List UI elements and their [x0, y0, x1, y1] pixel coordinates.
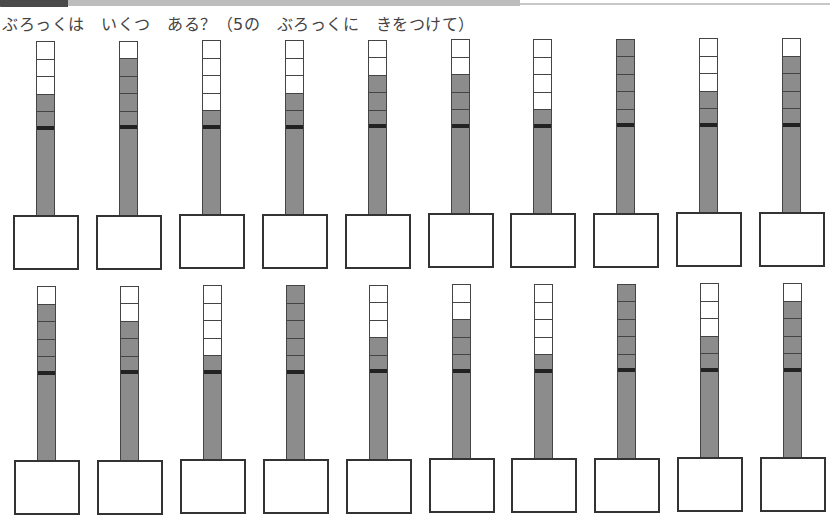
empty-block [203, 76, 220, 94]
filled-block [203, 111, 220, 129]
block-tower [533, 39, 552, 213]
answer-box[interactable] [676, 212, 742, 267]
empty-block [37, 77, 54, 95]
filled-block [784, 319, 801, 337]
empty-block [452, 40, 469, 58]
empty-block [453, 303, 470, 321]
answer-box[interactable] [96, 215, 162, 270]
empty-block [700, 74, 717, 92]
filled-block [783, 57, 800, 75]
answer-box[interactable] [180, 459, 246, 514]
filled-block [286, 94, 303, 112]
five-block [121, 374, 138, 460]
filled-block [370, 338, 387, 356]
answer-box[interactable] [511, 458, 577, 513]
filled-block [618, 285, 635, 303]
header-bar [68, 0, 520, 6]
filled-block [453, 338, 470, 356]
answer-box[interactable] [593, 213, 659, 268]
filled-block [453, 355, 470, 373]
answer-box[interactable] [13, 215, 79, 270]
filled-block [120, 59, 137, 77]
five-block [37, 130, 54, 216]
filled-block [287, 304, 304, 322]
answer-box[interactable] [97, 460, 163, 515]
answer-box[interactable] [594, 458, 660, 513]
block-tower [451, 39, 470, 213]
empty-block [701, 284, 718, 302]
answer-box[interactable] [759, 212, 825, 267]
answer-box[interactable] [14, 460, 80, 515]
five-block [203, 129, 220, 215]
filled-block [204, 356, 221, 374]
block-tower [369, 285, 388, 459]
five-block [38, 375, 55, 461]
answer-box[interactable] [428, 213, 494, 268]
empty-block [121, 304, 138, 322]
five-block [618, 372, 635, 458]
five-block [369, 128, 386, 214]
block-tower [617, 284, 636, 458]
five-block [783, 127, 800, 213]
five-block [370, 373, 387, 459]
empty-block [204, 339, 221, 357]
instruction-text: ぶろっくは いくつ ある？（5の ぶろっくに きをつけて） [2, 11, 475, 35]
answer-box[interactable] [760, 457, 826, 512]
filled-block [286, 111, 303, 129]
filled-block [534, 110, 551, 128]
empty-block [369, 58, 386, 76]
filled-block [452, 75, 469, 93]
filled-block [783, 74, 800, 92]
empty-block [453, 285, 470, 303]
block-tower [202, 40, 221, 214]
empty-block [452, 58, 469, 76]
answer-box[interactable] [179, 214, 245, 269]
filled-block [784, 302, 801, 320]
empty-block [535, 338, 552, 356]
empty-block [783, 39, 800, 57]
five-block [534, 128, 551, 214]
empty-block [120, 42, 137, 60]
empty-block [370, 303, 387, 321]
empty-block [784, 284, 801, 302]
empty-block [203, 94, 220, 112]
filled-block [287, 339, 304, 357]
five-block [452, 128, 469, 214]
block-tower [782, 38, 801, 212]
filled-block [453, 320, 470, 338]
answer-box[interactable] [510, 213, 576, 268]
answer-box[interactable] [346, 459, 412, 514]
filled-block [701, 354, 718, 372]
block-tower [36, 41, 55, 215]
filled-block [38, 340, 55, 358]
filled-block [38, 305, 55, 323]
answer-box[interactable] [345, 214, 411, 269]
answer-box[interactable] [263, 459, 329, 514]
filled-block [617, 40, 634, 58]
empty-block [535, 303, 552, 321]
filled-block [784, 337, 801, 355]
five-block [617, 127, 634, 213]
empty-block [535, 320, 552, 338]
answer-box[interactable] [429, 458, 495, 513]
filled-block [452, 110, 469, 128]
five-block [287, 374, 304, 460]
five-block [204, 374, 221, 460]
filled-block [618, 337, 635, 355]
empty-block [701, 302, 718, 320]
filled-block [369, 111, 386, 129]
empty-block [369, 41, 386, 59]
filled-block [783, 109, 800, 127]
filled-block [617, 57, 634, 75]
answer-box[interactable] [262, 214, 328, 269]
filled-block [120, 94, 137, 112]
filled-block [37, 112, 54, 130]
block-tower [37, 286, 56, 460]
block-tower [368, 40, 387, 214]
filled-block [700, 109, 717, 127]
header-rule [520, 3, 830, 5]
answer-box[interactable] [677, 457, 743, 512]
block-tower [783, 283, 802, 457]
empty-block [203, 41, 220, 59]
filled-block [287, 321, 304, 339]
